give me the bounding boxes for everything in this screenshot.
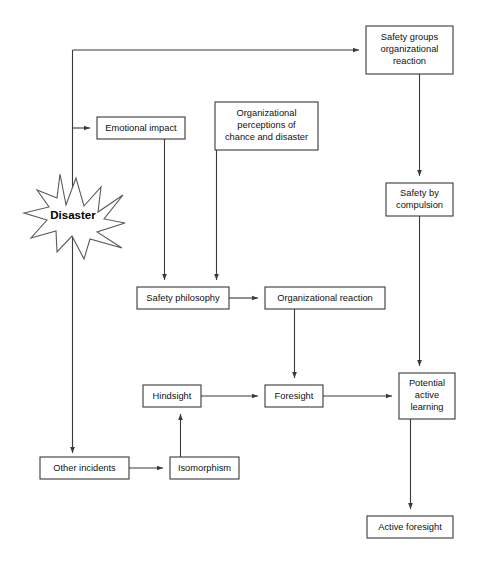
node-label-line: reaction bbox=[393, 56, 426, 66]
node-safety-by-compulsion[interactable]: Safety by compulsion bbox=[386, 183, 453, 216]
node-label-line: Isomorphism bbox=[178, 463, 231, 473]
flowchart-diagram: Safety groups organizational reaction Em… bbox=[0, 0, 477, 571]
node-foresight[interactable]: Foresight bbox=[265, 385, 323, 407]
node-label-line: Safety by bbox=[400, 188, 439, 198]
node-safety-philosophy[interactable]: Safety philosophy bbox=[137, 287, 229, 309]
flowchart-canvas: Safety groups organizational reaction Em… bbox=[0, 0, 477, 571]
node-organizational-reaction[interactable]: Organizational reaction bbox=[265, 287, 385, 309]
node-safety-groups-organizational-reaction[interactable]: Safety groups organizational reaction bbox=[366, 26, 453, 74]
node-active-foresight[interactable]: Active foresight bbox=[367, 516, 453, 538]
node-label-line: chance and disaster bbox=[225, 132, 308, 142]
node-label-line: Safety groups bbox=[381, 32, 439, 42]
node-emotional-impact[interactable]: Emotional impact bbox=[97, 117, 185, 139]
node-label-line: organizational bbox=[381, 44, 439, 54]
node-label-line: Other incidents bbox=[53, 463, 116, 473]
node-label-line: Active foresight bbox=[378, 522, 442, 532]
node-label-line: perceptions of bbox=[237, 120, 296, 130]
node-organizational-perceptions[interactable]: Organizational perceptions of chance and… bbox=[215, 102, 318, 150]
node-disaster-starburst[interactable]: Disaster bbox=[24, 174, 125, 259]
node-hindsight[interactable]: Hindsight bbox=[143, 385, 201, 407]
node-label-line: Hindsight bbox=[153, 391, 192, 401]
node-label-line: Emotional impact bbox=[105, 123, 177, 133]
node-label-line: Organizational bbox=[237, 108, 297, 118]
node-label-line: Foresight bbox=[275, 391, 314, 401]
node-label-line: active bbox=[415, 390, 439, 400]
node-isomorphism[interactable]: Isomorphism bbox=[170, 457, 239, 479]
node-other-incidents[interactable]: Other incidents bbox=[40, 457, 129, 479]
node-label-line: Potential bbox=[409, 378, 445, 388]
starburst-label: Disaster bbox=[50, 209, 96, 221]
node-potential-active-learning[interactable]: Potential active learning bbox=[399, 373, 455, 419]
node-label-line: Organizational reaction bbox=[277, 293, 373, 303]
node-label-line: compulsion bbox=[396, 200, 443, 210]
node-label-line: Safety philosophy bbox=[146, 293, 220, 303]
node-label-line: learning bbox=[410, 402, 443, 412]
